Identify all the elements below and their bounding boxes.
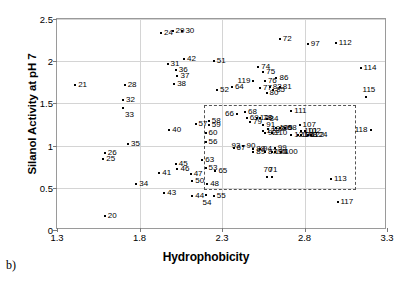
data-point-label: 90	[246, 142, 255, 150]
data-point-label: 93	[232, 142, 241, 150]
data-point-label: 48	[210, 180, 219, 188]
data-point-marker	[201, 159, 203, 161]
data-point-marker	[307, 43, 309, 45]
data-point-marker	[266, 92, 268, 94]
x-tick-mark	[387, 228, 388, 232]
data-point-marker	[290, 110, 292, 112]
data-point-marker	[102, 158, 104, 160]
y-tick-label: 1.5	[40, 98, 53, 109]
y-tick-mark	[53, 103, 57, 104]
data-point-marker	[175, 163, 177, 165]
data-point-label: 97	[311, 40, 320, 48]
data-point-label: 66	[225, 110, 234, 118]
data-point-marker	[271, 176, 273, 178]
data-point-marker	[173, 83, 175, 85]
data-point-marker	[259, 148, 261, 150]
data-point-label: 104	[275, 148, 288, 156]
data-point-marker	[122, 107, 124, 109]
data-point-marker	[310, 134, 312, 136]
gridline-vertical	[140, 19, 141, 228]
data-point-label: 115	[363, 86, 376, 94]
y-tick-mark	[53, 188, 57, 189]
data-point-marker	[272, 89, 274, 91]
data-point-marker	[264, 80, 266, 82]
y-tick-mark	[53, 146, 57, 147]
plot-area: 00.511.522.51.31.82.32.83.3 202124252628…	[56, 18, 386, 229]
y-tick-label: 2.5	[40, 14, 53, 25]
data-point-marker	[242, 145, 244, 147]
data-point-marker	[206, 183, 208, 185]
data-point-marker	[191, 180, 193, 182]
data-point-label: 54	[203, 199, 212, 207]
x-tick-mark	[140, 228, 141, 232]
data-point-marker	[172, 30, 174, 32]
x-tick-label: 1.8	[133, 232, 146, 243]
data-point-label: 46	[180, 165, 189, 173]
panel-letter: b)	[6, 258, 16, 273]
data-point-marker	[205, 194, 207, 196]
x-tick-label: 1.3	[50, 232, 63, 243]
data-point-label: 111	[294, 107, 306, 115]
data-point-marker	[163, 192, 165, 194]
data-point-label: 28	[128, 81, 137, 89]
data-point-label: 114	[364, 64, 377, 72]
data-point-marker	[266, 176, 268, 178]
data-point-marker	[330, 178, 332, 180]
data-point-label: 51	[217, 57, 226, 65]
data-point-marker	[246, 117, 248, 119]
data-point-marker	[122, 99, 124, 101]
data-point-label: 32	[126, 96, 135, 104]
data-point-label: 56	[209, 138, 218, 146]
data-point-marker	[337, 201, 339, 203]
x-tick-mark	[222, 228, 223, 232]
data-point-label: 84	[270, 115, 279, 123]
data-point-label: 119	[238, 77, 251, 85]
data-point-marker	[104, 215, 106, 217]
gridline-horizontal	[57, 188, 385, 189]
x-tick-label: 3.3	[380, 232, 393, 243]
data-point-label: 21	[78, 81, 87, 89]
data-point-marker	[271, 151, 273, 153]
data-point-label: 35	[131, 140, 140, 148]
data-point-marker	[262, 71, 264, 73]
data-point-marker	[259, 87, 261, 89]
data-point-marker	[213, 60, 215, 62]
data-point-label: 26	[108, 149, 117, 157]
data-point-label: 72	[283, 35, 292, 43]
data-point-marker	[167, 63, 169, 65]
data-point-marker	[307, 134, 309, 136]
data-point-marker	[236, 113, 238, 115]
data-point-marker	[259, 117, 261, 119]
data-point-marker	[252, 80, 254, 82]
data-point-marker	[262, 124, 264, 126]
data-point-marker	[275, 77, 277, 79]
data-point-label: 65	[218, 167, 227, 175]
data-point-marker	[158, 172, 160, 174]
gridline-horizontal	[57, 103, 385, 104]
data-point-marker	[74, 84, 76, 86]
x-tick-label: 2.8	[298, 232, 311, 243]
data-point-marker	[205, 167, 207, 169]
data-point-marker	[135, 183, 137, 185]
data-point-marker	[299, 124, 301, 126]
y-tick-label: 0.5	[40, 182, 53, 193]
data-point-marker	[208, 120, 210, 122]
data-point-label: 20	[108, 212, 117, 220]
data-point-marker	[168, 129, 170, 131]
y-tick-mark	[53, 19, 57, 20]
data-point-marker	[205, 132, 207, 134]
y-axis-label: Silanol Activity at pH 7	[26, 19, 38, 209]
data-point-label: 107	[303, 121, 316, 129]
data-point-marker	[183, 58, 185, 60]
data-point-marker	[231, 86, 233, 88]
data-point-marker	[365, 96, 367, 98]
x-tick-mark	[305, 228, 306, 232]
data-point-marker	[104, 152, 106, 154]
data-point-marker	[257, 66, 259, 68]
gridline-horizontal	[57, 19, 385, 20]
x-tick-mark	[57, 228, 58, 232]
data-point-label: 75	[266, 68, 275, 76]
data-point-label: 34	[139, 180, 148, 188]
data-point-label: 113	[334, 175, 347, 183]
data-point-marker	[262, 130, 264, 132]
